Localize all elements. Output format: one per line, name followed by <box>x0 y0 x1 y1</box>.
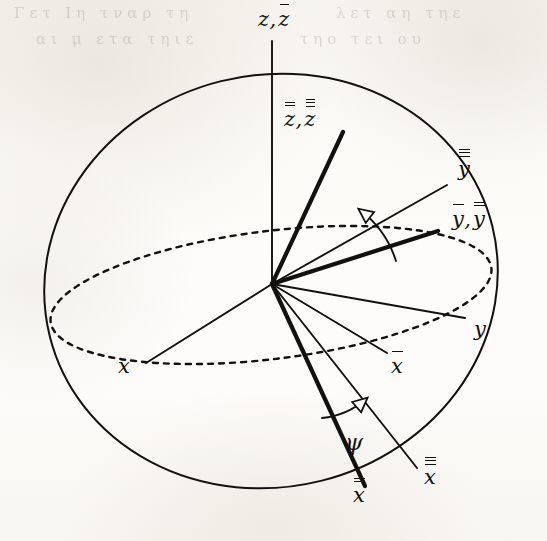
glyph-x-bars-3: x <box>424 466 436 488</box>
axis-ray-y-bar-axis <box>272 231 438 284</box>
axis-label-x-bar: x <box>391 355 403 377</box>
glyph-z-bars-2: z <box>284 108 295 130</box>
glyph-y-bars-1: y <box>452 208 464 230</box>
label-comma: , <box>464 207 473 231</box>
label-comma: , <box>269 7 278 31</box>
axis-label-x-triple: x <box>424 466 436 488</box>
glyph-z-bars-0: z <box>258 8 269 30</box>
axis-label-y: y <box>474 318 486 340</box>
axis-label-x-double: x <box>353 484 365 506</box>
axis-label-y-bar: y,y <box>452 208 485 230</box>
label-comma: , <box>295 107 304 131</box>
glyph-y-bars-3: y <box>458 158 470 180</box>
axis-label-y-triple: y <box>458 158 470 180</box>
glyph-z-bars-3: z <box>304 108 315 130</box>
angle-arcs-group <box>322 210 396 418</box>
sphere-outline-group <box>0 26 542 536</box>
axis-ray-x-axis <box>146 284 272 363</box>
glyph-x-bars-1: x <box>391 355 403 377</box>
glyph-y-bars-2: y <box>473 208 485 230</box>
figure-canvas: Γετ Ιη τναρ τη αι μ ετα τηιε λετ αη τηε … <box>0 0 547 541</box>
sphere-outline <box>0 26 542 536</box>
glyph-y-bars-0: y <box>474 318 486 340</box>
axis-label-x: x <box>118 355 130 377</box>
glyph-x-bars-0: x <box>118 355 130 377</box>
glyph-x-bars-2: x <box>353 484 365 506</box>
euler-angle-diagram <box>0 0 547 541</box>
angle-label-psi: ψ <box>345 431 363 454</box>
axis-label-z-double: z,z <box>284 108 315 130</box>
axis-ray-z-double-axis <box>272 132 343 284</box>
axis-label-z: z,z <box>258 8 289 30</box>
glyph-z-bars-1: z <box>278 8 289 30</box>
